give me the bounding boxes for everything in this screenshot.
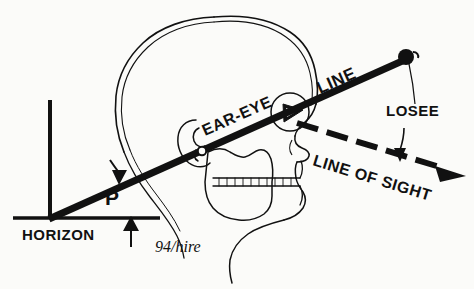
losee-label: LOSEE xyxy=(386,102,439,119)
mandible-outline xyxy=(205,149,302,220)
angle-p-label: P xyxy=(105,186,119,209)
signature-text: 94/hire xyxy=(155,238,201,255)
diagram-canvas: 94/hire HORIZON P EAR-EYE LINE LINE OF S… xyxy=(0,0,474,289)
skull-outline xyxy=(115,16,317,258)
line-of-sight-arrowhead xyxy=(435,166,466,182)
nasal-aperture xyxy=(290,140,292,155)
signature: 94/hire xyxy=(155,238,201,255)
ear-point-marker xyxy=(198,147,206,155)
line-of-sight-label: LINE OF SIGHT xyxy=(311,152,434,204)
losee-marker xyxy=(398,49,418,104)
head-angle-diagram: 94/hire HORIZON P EAR-EYE LINE LINE OF S… xyxy=(0,0,474,289)
horizon-label: HORIZON xyxy=(22,226,95,243)
